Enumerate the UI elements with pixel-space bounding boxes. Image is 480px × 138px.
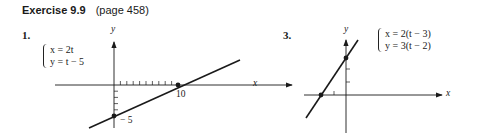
point-x-intercept	[319, 93, 324, 98]
graph-3-x-label: x	[446, 88, 450, 98]
graph-1-tick-minus5: − 5	[120, 115, 132, 125]
graph-1-y-label: y	[111, 24, 115, 34]
graphs	[0, 0, 480, 138]
graph-1-tick-10: 10	[176, 89, 186, 99]
parametric-line	[89, 60, 240, 128]
parametric-line	[306, 40, 358, 118]
graph-3-y-label: y	[344, 24, 348, 34]
graph-3	[304, 40, 442, 133]
point-y-intercept	[344, 56, 349, 61]
point-x-intercept	[176, 83, 181, 88]
graph-1-x-label: x	[253, 78, 257, 88]
y-ticks	[114, 91, 118, 110]
x-ticks	[120, 81, 171, 85]
point-y-intercept	[112, 114, 117, 119]
